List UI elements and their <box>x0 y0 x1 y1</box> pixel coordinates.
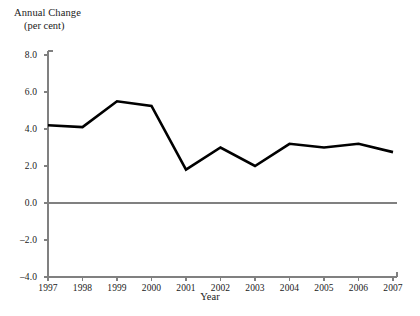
y-tick-label: 2.0 <box>7 161 37 171</box>
y-tick-label: –2.0 <box>7 235 37 245</box>
y-tick-label: 4.0 <box>7 124 37 134</box>
x-axis-title: Year <box>0 291 420 302</box>
y-tick-label: 0.0 <box>7 198 37 208</box>
y-tick-label: 8.0 <box>7 50 37 60</box>
plot-area <box>0 0 420 316</box>
y-tick-label: –4.0 <box>7 272 37 282</box>
annual-change-line-chart: Annual Change (per cent) 8.06.04.02.00.0… <box>0 0 420 316</box>
y-tick-label: 6.0 <box>7 87 37 97</box>
series-annual-change <box>48 101 393 169</box>
data-series-line <box>48 101 393 169</box>
axis-tick-marks <box>44 55 393 281</box>
axis-lines <box>48 51 397 277</box>
